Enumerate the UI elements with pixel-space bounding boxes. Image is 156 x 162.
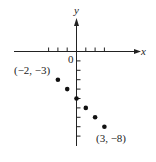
x-axis-label: x <box>140 45 146 57</box>
y-axis-label: y <box>73 4 79 16</box>
coordinate-plot: xy0(−2, −3)(3, −8) <box>0 0 156 162</box>
annotation-point-end: (3, −8) <box>96 132 126 145</box>
data-point <box>102 124 107 129</box>
labels: xy0(−2, −3)(3, −8) <box>14 4 146 145</box>
data-point <box>84 106 89 111</box>
origin-label: 0 <box>68 53 74 65</box>
data-point <box>74 96 79 101</box>
x-axis-arrow-icon <box>134 49 141 54</box>
data-points <box>56 77 107 129</box>
data-point <box>56 77 61 82</box>
annotation-point-start: (−2, −3) <box>14 64 51 77</box>
data-point <box>65 87 70 92</box>
y-axis-arrow-icon <box>74 18 79 26</box>
data-point <box>93 115 98 120</box>
